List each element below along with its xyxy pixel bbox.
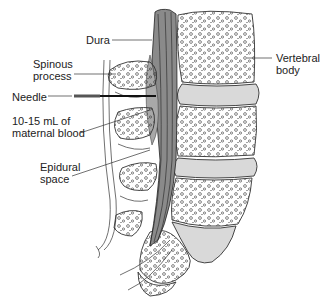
label-dura: Dura [86, 34, 110, 46]
label-blood-line2: maternal blood [12, 127, 85, 139]
label-epidural-line1: Epidural [40, 161, 80, 173]
label-blood-line1: 10-15 mL of [12, 115, 70, 127]
label-spinous-process-line1: Spinous [33, 58, 73, 70]
label-epidural-line2: space [40, 173, 69, 185]
epidural-blood-patch-diagram: Dura Spinous process Needle 10-15 mL of … [0, 0, 330, 297]
anatomy-illustration [0, 0, 330, 297]
label-vertebral-line1: Vertebral [276, 52, 320, 64]
label-spinous-process-line2: process [33, 70, 72, 82]
label-vertebral-line2: body [276, 64, 300, 76]
label-needle: Needle [12, 91, 47, 103]
